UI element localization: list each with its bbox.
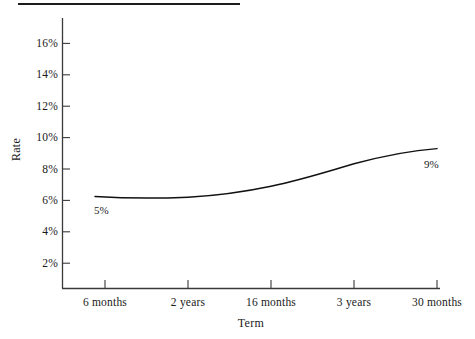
y-tick-label: 2% xyxy=(18,257,58,269)
y-tick-label: 6% xyxy=(18,194,58,206)
yield-curve-chart: 16% 14% 12% 10% 8% 6% 4% 2% 6 months 2 y… xyxy=(0,0,475,339)
y-tick-label: 8% xyxy=(18,163,58,175)
y-tick-label: 10% xyxy=(18,131,58,143)
chart-plot-svg xyxy=(0,0,475,339)
x-tick-label: 3 years xyxy=(337,296,371,309)
y-tick-label: 16% xyxy=(18,37,58,49)
x-tick-label: 6 months xyxy=(83,296,127,309)
rate-curve-line xyxy=(95,149,437,198)
x-axis-title: Term xyxy=(62,316,440,331)
data-label-end: 9% xyxy=(424,158,439,170)
x-tick-label: 16 months xyxy=(246,296,296,309)
x-tick-label: 2 years xyxy=(171,296,205,309)
y-axis-ticks xyxy=(62,43,70,263)
chart-screenshot: 16% 14% 12% 10% 8% 6% 4% 2% 6 months 2 y… xyxy=(0,0,475,339)
y-tick-label: 14% xyxy=(18,68,58,80)
y-tick-label: 12% xyxy=(18,100,58,112)
y-tick-label: 4% xyxy=(18,225,58,237)
x-axis-ticks xyxy=(105,280,437,288)
y-axis-title: Rate xyxy=(9,120,24,180)
x-tick-label: 30 months xyxy=(412,296,462,309)
data-label-start: 5% xyxy=(94,204,109,216)
